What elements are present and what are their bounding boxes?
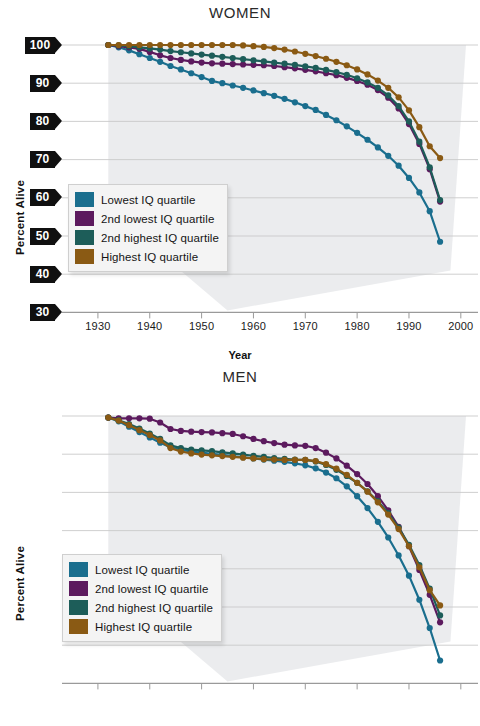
legend-label: Highest IQ quartile [101,251,198,263]
data-point [271,45,277,51]
data-point [136,427,142,433]
legend-row: Lowest IQ quartile [69,560,213,579]
data-point [281,457,287,463]
data-point [126,42,132,48]
y-tick-label: 40 [30,266,55,283]
data-point [396,526,402,532]
swatch-highest [69,619,88,634]
chart-svg [0,366,480,726]
legend-row: 2nd highest IQ quartile [69,598,213,617]
data-point [271,456,277,462]
data-point [364,137,370,143]
data-point [199,74,205,80]
data-point [199,429,205,435]
data-point [292,99,298,105]
y-tick-arrow [55,37,62,53]
data-point [188,58,194,64]
data-point [396,94,402,100]
data-point [199,59,205,65]
data-point [364,79,370,85]
data-point [240,56,246,62]
legend-label: 2nd lowest IQ quartile [95,583,208,595]
data-point [240,433,246,439]
data-point [250,57,256,63]
data-point [323,112,329,118]
legend-women: Lowest IQ quartile2nd lowest IQ quartile… [68,184,228,272]
data-point [427,143,433,149]
data-point [167,63,173,69]
data-point [178,448,184,454]
data-point [219,54,225,60]
x-tick-label: 1990 [386,320,432,332]
data-point [344,472,350,478]
data-point [250,436,256,442]
y-tick-arrow [55,151,62,167]
data-point [261,438,267,444]
data-point [230,82,236,88]
swatch-2nd-lowest [69,581,88,596]
data-point [105,42,111,48]
legend-label: Highest IQ quartile [95,621,192,633]
data-point [116,42,122,48]
data-point [147,416,153,422]
x-tick-label: 1950 [179,320,225,332]
data-point [250,43,256,49]
data-point [209,60,215,66]
y-tick-arrow [55,189,62,205]
data-point [354,66,360,72]
data-point [240,455,246,461]
data-point [219,42,225,48]
x-tick-label: 1980 [334,320,380,332]
data-point [313,65,319,71]
data-point [416,564,422,570]
data-point [437,619,443,625]
legend-label: Lowest IQ quartile [95,564,190,576]
data-point [406,543,412,549]
data-point [292,62,298,68]
data-point [136,51,142,57]
data-point [344,123,350,129]
data-point [416,124,422,130]
data-point [230,61,236,67]
data-point [178,428,184,434]
data-point [240,61,246,67]
data-point [385,153,391,159]
data-point [406,573,412,579]
data-point [292,48,298,54]
data-point [354,75,360,81]
data-point [375,519,381,525]
data-point [281,442,287,448]
data-point [385,92,391,98]
data-point [230,42,236,48]
legend-row: 2nd lowest IQ quartile [75,209,219,228]
data-point [219,61,225,67]
data-point [178,42,184,48]
swatch-lowest [69,562,88,577]
data-point [323,469,329,475]
data-point [375,85,381,91]
swatch-2nd-highest [75,230,94,245]
data-point [302,462,308,468]
data-point [437,239,443,245]
data-point [147,432,153,438]
legend-label: Lowest IQ quartile [101,194,196,206]
data-point [437,657,443,663]
x-tick-label: 2000 [438,320,480,332]
data-point [333,59,339,65]
data-point [292,457,298,463]
x-tick-label: 1960 [230,320,276,332]
plot-area-women [0,0,480,366]
legend-row: Highest IQ quartile [69,617,213,636]
legend-label: 2nd highest IQ quartile [101,232,219,244]
legend-men: Lowest IQ quartile2nd lowest IQ quartile… [62,554,222,642]
data-point [302,103,308,109]
data-point [427,164,433,170]
y-tick-label: 60 [30,189,55,206]
data-point [157,437,163,443]
data-point [375,77,381,83]
chart-svg [0,0,480,366]
data-point [302,51,308,57]
data-point [178,49,184,55]
data-point [230,454,236,460]
chart-panel-men: MEN Percent Alive Lowest IQ quartile2nd … [0,366,480,726]
